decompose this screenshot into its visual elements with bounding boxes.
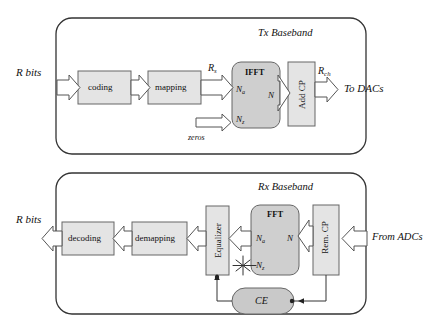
rx-label-fft: FFT — [267, 210, 283, 219]
rx-arrow-output — [42, 226, 62, 251]
rx-arrow-input — [342, 226, 367, 251]
diagram-canvas: .panel { fill:none; stroke:#333; stroke-… — [0, 0, 439, 327]
figure-root: .panel { fill:none; stroke:#333; stroke-… — [0, 0, 439, 327]
rx-label-rem-cp: Rem. CP — [321, 218, 330, 258]
rx-arrow-remcp-to-fft — [298, 220, 313, 252]
tx-output-label: To DACs — [344, 83, 384, 94]
tx-label-zeros: zeros — [188, 134, 205, 142]
tx-ifft-port-n-out: N — [268, 91, 274, 100]
tx-arrow-coding-to-mapping — [131, 75, 150, 100]
rx-panel-title: Rx Baseband — [258, 182, 313, 193]
rx-output-label: R bits — [16, 214, 41, 225]
tx-label-coding: coding — [88, 83, 113, 92]
ce-input-arrowhead — [298, 298, 304, 304]
rx-label-demapping: demapping — [135, 234, 175, 243]
tx-label-add-cp: Add CP — [298, 75, 307, 115]
tx-signal-rs: Rs — [208, 63, 217, 74]
tx-arrow-mapping-to-ifft — [201, 75, 233, 100]
tx-panel-title: Tx Baseband — [258, 28, 313, 39]
tx-signal-rch: Rch — [318, 66, 331, 77]
tx-arrow-input — [57, 75, 80, 100]
tx-ifft-port-nz: Nz — [236, 115, 244, 125]
rx-label-equalizer: Equalizer — [214, 221, 223, 261]
tx-arrow-zeros-to-ifft — [196, 114, 231, 131]
tx-label-ifft: IFFT — [245, 68, 264, 77]
tx-ifft-port-na: Na — [236, 85, 245, 95]
rx-fft-port-n-in: N — [287, 234, 293, 243]
rx-fft-port-nz: Nz — [256, 261, 264, 271]
rx-arrow-demapping-to-decoding — [113, 226, 132, 251]
tx-input-label: R bits — [16, 67, 41, 78]
rx-arrow-equalizer-to-demapping — [187, 226, 206, 251]
rx-arrow-fft-to-equalizer — [229, 226, 251, 251]
ce-input-junction-dot — [290, 299, 294, 303]
tx-label-mapping: mapping — [155, 83, 187, 92]
rx-label-decoding: decoding — [68, 234, 101, 243]
equalizer-input-junction-dot — [215, 275, 219, 279]
rx-label-ce: CE — [255, 296, 268, 306]
rx-input-label: From ADCs — [372, 232, 422, 243]
tx-arrow-output — [315, 77, 338, 102]
rx-fft-port-na: Na — [256, 234, 265, 244]
